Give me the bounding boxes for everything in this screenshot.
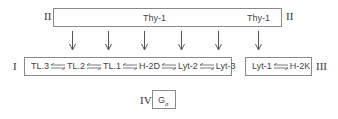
double-arrow-icon: [50, 63, 66, 70]
group-iii-chain: Lyt-1 H-2K: [252, 62, 310, 71]
roman-label-ii-right: II: [286, 11, 293, 22]
gene-tl2: TL.2: [67, 62, 85, 71]
down-arrow-icon: [69, 31, 76, 51]
thy1-label-main: Thy-1: [143, 14, 166, 23]
group-ii-box: Thy-1 Thy-1: [53, 8, 282, 27]
thy1-label-right: Thy-1: [247, 14, 270, 23]
double-arrow-icon: [199, 63, 215, 70]
down-arrow-icon: [255, 31, 262, 51]
down-arrow-icon: [105, 31, 112, 51]
gene-h2d: H-2D: [139, 62, 160, 71]
gene-tl3: TL.3: [31, 62, 49, 71]
roman-label-iv: IV: [140, 95, 152, 106]
down-arrow-icon: [215, 31, 222, 51]
gene-lyt2: Lyt-2: [178, 62, 198, 71]
g-label: G: [158, 95, 165, 105]
double-arrow-icon: [122, 63, 138, 70]
group-i-box: TL.3 TL.2 TL.1 H-2D Lyt-2 Lyt-3: [24, 57, 232, 76]
group-iii-box: Lyt-1 H-2K: [245, 57, 312, 76]
double-arrow-icon: [273, 63, 289, 70]
alpha-subscript: α: [165, 101, 168, 107]
roman-label-ii-left: II: [44, 11, 51, 22]
gene-lyt3: Lyt-3: [216, 62, 236, 71]
group-i-chain: TL.3 TL.2 TL.1 H-2D Lyt-2 Lyt-3: [31, 62, 235, 71]
gene-h2k: H-2K: [290, 62, 311, 71]
g-alpha-label: Gα: [158, 96, 168, 107]
roman-label-iii: III: [316, 61, 327, 72]
group-iv-box: Gα: [152, 90, 176, 109]
double-arrow-icon: [86, 63, 102, 70]
gene-lyt1: Lyt-1: [252, 62, 272, 71]
roman-label-i: I: [13, 61, 17, 72]
down-arrow-icon: [178, 31, 185, 51]
double-arrow-icon: [161, 63, 177, 70]
gene-tl1: TL.1: [103, 62, 121, 71]
down-arrow-icon: [141, 31, 148, 51]
